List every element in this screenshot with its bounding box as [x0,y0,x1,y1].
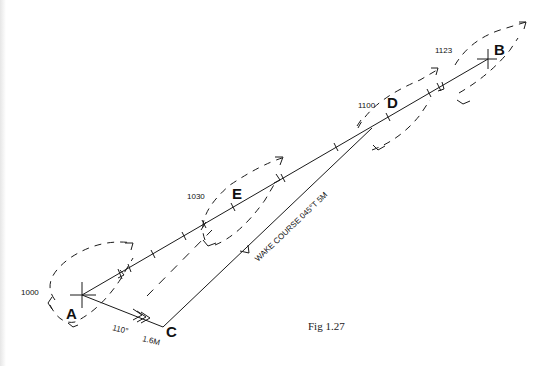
tide-vector-line [82,295,163,327]
point-label-a: A [66,305,77,322]
figure-caption: Fig 1.27 [308,320,345,332]
error-outline-a [48,242,133,327]
ground-track-line [82,59,488,295]
tide-distance-label: 1.6M [142,334,162,347]
time-label-d: 1100 [358,101,376,110]
wake-course-line [163,128,372,327]
track-arrow-2 [274,174,280,183]
time-label-a: 1000 [21,288,39,297]
point-label-d: D [387,94,398,111]
point-label-b: B [494,41,505,58]
point-label-c: C [166,323,177,340]
chartwork-diagram: A 1000 C E 1030 D 1100 B 1123 110° 1.6M … [0,0,549,366]
error-outline-b [455,22,526,104]
point-label-e: E [232,185,242,202]
tide-bearing-label: 110° [112,323,130,336]
time-label-b: 1123 [435,46,453,55]
time-label-e: 1030 [187,192,205,201]
track-ticks [118,83,441,279]
dashed-transfer-line [147,230,212,296]
